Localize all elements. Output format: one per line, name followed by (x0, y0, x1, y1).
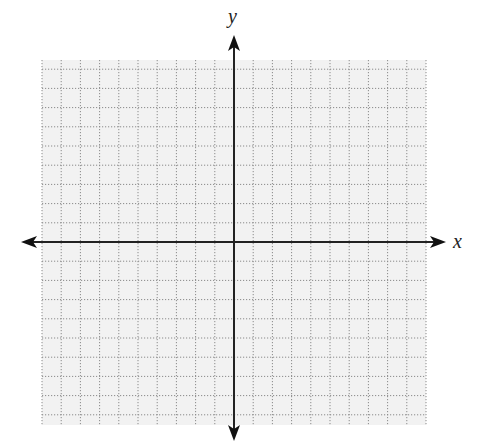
y-axis-label: y (226, 5, 237, 28)
coordinate-plane: x y (0, 0, 478, 445)
x-axis-label: x (452, 230, 462, 252)
